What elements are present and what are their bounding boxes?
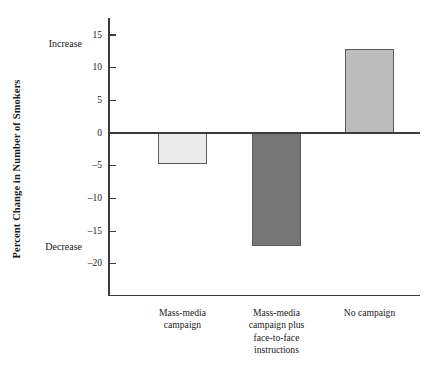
y-tick-label: 5 bbox=[76, 95, 102, 105]
y-tick-label: –5 bbox=[76, 160, 102, 170]
x-axis-category-label: No campaign bbox=[318, 307, 422, 319]
y-tick-label: 10 bbox=[76, 62, 102, 72]
y-tick-mark bbox=[109, 231, 116, 232]
x-axis-category-label: Mass-mediacampaign plusface-to-faceinstr… bbox=[225, 307, 329, 357]
x-axis-category-label-line: No campaign bbox=[318, 307, 422, 319]
bar bbox=[252, 133, 301, 245]
x-axis-category-label-line: face-to-face bbox=[225, 332, 329, 344]
y-tick-label: –10 bbox=[76, 193, 102, 203]
y-tick-label-wrap: 5 bbox=[76, 95, 102, 105]
y-tick-label-wrap: –5 bbox=[76, 160, 102, 170]
y-tick-label-wrap: 10 bbox=[76, 62, 102, 72]
decrease-annotation: Decrease bbox=[16, 241, 82, 252]
y-tick-mark bbox=[109, 263, 116, 264]
y-tick-label: 0 bbox=[76, 128, 102, 138]
y-tick-label: 15 bbox=[76, 30, 102, 40]
y-tick-mark bbox=[109, 100, 116, 101]
zero-reference-line bbox=[108, 132, 420, 133]
y-tick-mark bbox=[109, 34, 116, 35]
increase-annotation: Increase bbox=[16, 38, 82, 49]
y-tick-label: –20 bbox=[76, 258, 102, 268]
y-tick-label-wrap: 0 bbox=[76, 128, 102, 138]
x-axis-category-label-line: instructions bbox=[225, 344, 329, 356]
y-tick-mark bbox=[109, 198, 116, 199]
x-axis-category-label-line: Mass-media bbox=[131, 307, 235, 319]
y-axis-title: Percent Change in Number of Smokers bbox=[8, 19, 26, 319]
y-tick-label-wrap: –15 bbox=[76, 226, 102, 236]
x-axis-category-label-line: Mass-media bbox=[225, 307, 329, 319]
y-tick-mark bbox=[109, 67, 116, 68]
y-tick-label: –15 bbox=[76, 226, 102, 236]
bar bbox=[158, 133, 207, 164]
y-tick-label-wrap: 15 bbox=[76, 30, 102, 40]
y-axis-line bbox=[108, 18, 110, 296]
y-tick-label-wrap: –20 bbox=[76, 258, 102, 268]
x-axis-baseline bbox=[108, 295, 420, 297]
bar bbox=[345, 49, 394, 133]
x-axis-category-label: Mass-mediacampaign bbox=[131, 307, 235, 332]
x-axis-category-label-line: campaign bbox=[131, 319, 235, 331]
y-tick-label-wrap: –10 bbox=[76, 193, 102, 203]
bar-chart: Percent Change in Number of Smokers Incr… bbox=[0, 0, 428, 365]
x-axis-category-label-line: campaign plus bbox=[225, 319, 329, 331]
y-tick-mark bbox=[109, 165, 116, 166]
